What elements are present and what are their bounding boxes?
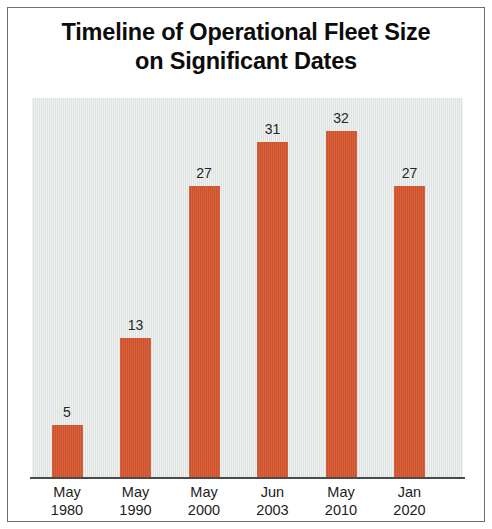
bar: [120, 338, 151, 479]
x-axis-tick-year: 1980: [33, 502, 101, 520]
x-axis-tick-month: May: [33, 484, 101, 502]
bar-value-label: 13: [111, 318, 161, 332]
chart-title-line-1: Timeline of Operational Fleet Size: [62, 19, 431, 45]
x-axis-tick-year: 2020: [376, 502, 444, 520]
bar-value-label: 27: [179, 166, 229, 180]
x-axis-tick-label: Jun2003: [239, 484, 307, 519]
chart-page: Timeline of Operational Fleet Size on Si…: [0, 0, 492, 529]
x-axis-tick-year: 2003: [239, 502, 307, 520]
x-axis-tick-label: May2000: [170, 484, 238, 519]
bar: [326, 131, 357, 479]
chart-title: Timeline of Operational Fleet Size on Si…: [20, 18, 472, 75]
x-axis-tick-month: May: [102, 484, 170, 502]
bar-value-label: 31: [248, 122, 298, 136]
plot-area: 51327313227: [32, 98, 463, 479]
x-axis-tick-month: Jan: [376, 484, 444, 502]
bar-value-label: 27: [385, 166, 435, 180]
x-axis-tick-label: May1990: [102, 484, 170, 519]
x-axis-tick-year: 1990: [102, 502, 170, 520]
bar: [189, 186, 220, 479]
x-axis-line: [30, 477, 465, 479]
bar: [394, 186, 425, 479]
x-axis-tick-labels: May1980May1990May2000Jun2003May2010Jan20…: [32, 484, 463, 526]
x-axis-tick-month: Jun: [239, 484, 307, 502]
x-axis-tick-label: Jan2020: [376, 484, 444, 519]
x-axis-tick-year: 2000: [170, 502, 238, 520]
bar-value-label: 32: [316, 111, 366, 125]
chart-title-line-2: on Significant Dates: [20, 47, 472, 76]
x-axis-tick-label: May2010: [307, 484, 375, 519]
x-axis-tick-label: May1980: [33, 484, 101, 519]
bar: [52, 425, 83, 479]
bar: [257, 142, 288, 479]
x-axis-tick-year: 2010: [307, 502, 375, 520]
x-axis-tick-month: May: [307, 484, 375, 502]
bar-value-label: 5: [42, 405, 92, 419]
bar-series: 51327313227: [32, 98, 463, 479]
x-axis-tick-month: May: [170, 484, 238, 502]
